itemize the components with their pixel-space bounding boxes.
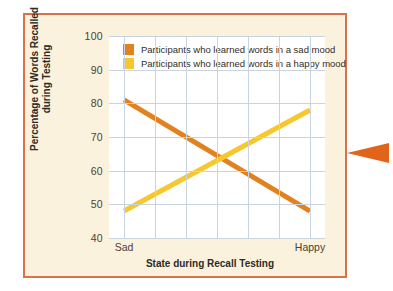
gridline-vertical <box>310 36 311 238</box>
gridline-vertical <box>186 36 187 238</box>
y-axis-tick-label: 100 <box>85 30 103 42</box>
y-axis-tick-label: 70 <box>91 131 103 143</box>
x-axis-ticks: SadHappy <box>109 241 325 257</box>
gridline-vertical <box>155 36 156 238</box>
legend-item: Participants who learned words in a happ… <box>123 58 346 69</box>
gridline-vertical <box>124 36 125 238</box>
gridline-horizontal <box>109 238 325 239</box>
y-axis-tick-label: 60 <box>91 165 103 177</box>
legend-item: Participants who learned words in a sad … <box>123 44 346 55</box>
legend-label-sad-mood: Participants who learned words in a sad … <box>141 44 335 55</box>
y-axis-tick-label: 90 <box>91 64 103 76</box>
y-axis-tick-label: 50 <box>91 198 103 210</box>
y-axis-title-line2: during Testing <box>41 0 53 159</box>
y-axis-tick-label: 40 <box>91 232 103 244</box>
y-axis-tick-label: 80 <box>91 97 103 109</box>
gridline-vertical <box>217 36 218 238</box>
legend-label-happy-mood: Participants who learned words in a happ… <box>141 58 346 69</box>
y-axis-title: Percentage of Words Recalled during Test… <box>29 0 53 159</box>
x-axis-tick-label: Happy <box>295 241 325 253</box>
plot-area: Participants who learned words in a sad … <box>109 36 325 238</box>
chart-legend: Participants who learned words in a sad … <box>123 44 346 72</box>
figure-frame: 100908070605040 Percentage of Words Reca… <box>23 13 347 278</box>
x-axis-title: State during Recall Testing <box>85 258 335 269</box>
gridline-vertical <box>248 36 249 238</box>
x-axis-tick-label: Sad <box>115 241 134 253</box>
gridline-vertical <box>279 36 280 238</box>
triangle-left-icon <box>345 141 389 165</box>
y-axis-ticks: 100908070605040 <box>63 15 107 280</box>
y-axis-title-line1: Percentage of Words Recalled <box>29 0 41 159</box>
